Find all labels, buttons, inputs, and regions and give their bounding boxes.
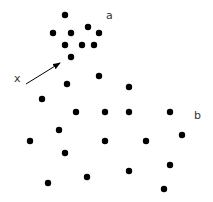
label-b: b <box>194 110 201 121</box>
point <box>62 12 68 18</box>
point <box>167 109 173 115</box>
point <box>27 138 33 144</box>
diagram-svg <box>0 0 213 202</box>
point <box>102 109 108 115</box>
point <box>179 132 185 138</box>
point <box>50 30 56 36</box>
point <box>73 109 79 115</box>
point <box>62 42 68 48</box>
scatter-diagram: a x b <box>0 0 213 202</box>
point <box>62 150 68 156</box>
point <box>91 42 97 48</box>
point <box>102 138 108 144</box>
point <box>96 73 102 79</box>
label-x: x <box>14 73 21 84</box>
point <box>45 180 51 186</box>
point <box>64 81 70 87</box>
arrow-pointer <box>26 63 60 84</box>
point <box>85 24 91 30</box>
point <box>56 127 62 133</box>
point <box>143 138 149 144</box>
point <box>126 168 132 174</box>
point <box>68 54 74 60</box>
point <box>79 42 85 48</box>
point <box>39 96 45 102</box>
point <box>161 186 167 192</box>
point <box>167 162 173 168</box>
point <box>126 109 132 115</box>
label-a: a <box>106 10 113 21</box>
points-group <box>27 12 185 192</box>
point <box>84 174 90 180</box>
point <box>96 30 102 36</box>
point <box>68 30 74 36</box>
point <box>126 84 132 90</box>
